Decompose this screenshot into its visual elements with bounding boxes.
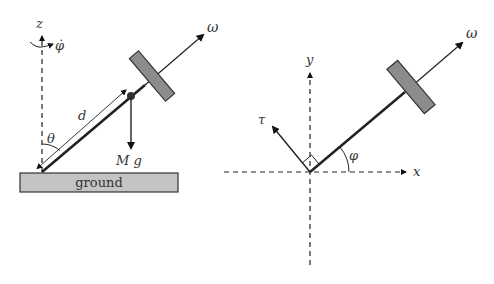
- theta-label: θ: [47, 131, 55, 146]
- distance-dimension: [40, 90, 126, 166]
- weight-label: M g: [115, 153, 142, 168]
- omega-label-left: ω: [207, 19, 219, 35]
- phi-dot-label: φ̇: [55, 38, 65, 53]
- ground-label: ground: [75, 175, 122, 190]
- torque-arrow: [273, 127, 310, 172]
- right-angle-marker: [302, 155, 319, 164]
- phi-label: φ: [349, 148, 359, 163]
- z-axis-label: z: [35, 16, 43, 31]
- ground-block: ground: [20, 173, 178, 192]
- right-panel: x y ω τ φ: [224, 25, 478, 265]
- distance-label: d: [78, 108, 86, 123]
- phi-arc: [340, 147, 349, 172]
- gyroscope-diagram: ground z φ̇ ω M g d θ x: [0, 0, 494, 284]
- left-panel: ground z φ̇ ω M g d θ: [20, 16, 219, 192]
- tau-label: τ: [258, 112, 266, 127]
- omega-label-right: ω: [466, 25, 478, 41]
- x-axis-label: x: [413, 164, 421, 179]
- flywheel-disk-top-view: [387, 60, 435, 113]
- y-axis-label: y: [305, 52, 314, 67]
